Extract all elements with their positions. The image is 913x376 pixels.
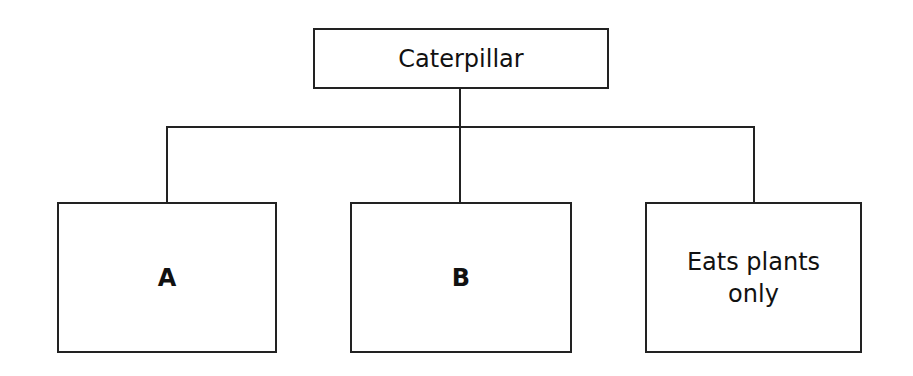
child-node-b: B bbox=[350, 202, 572, 353]
child-node-eats-plants-only: Eats plants only bbox=[645, 202, 862, 353]
branch-line-a bbox=[166, 126, 168, 203]
branch-line-c bbox=[753, 126, 755, 203]
branch-line-b bbox=[459, 126, 461, 203]
child-node-c-label: Eats plants only bbox=[679, 246, 829, 310]
child-node-a-label: A bbox=[158, 264, 177, 292]
child-node-b-label: B bbox=[452, 264, 470, 292]
root-node-caterpillar: Caterpillar bbox=[313, 28, 609, 89]
child-node-a: A bbox=[57, 202, 277, 353]
root-node-label: Caterpillar bbox=[398, 45, 523, 73]
root-stem-line bbox=[459, 88, 461, 128]
